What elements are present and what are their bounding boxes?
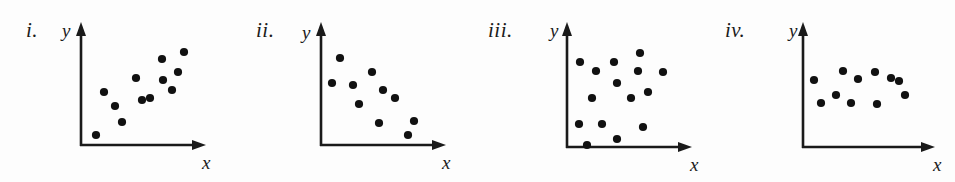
x-axis-arrow-icon-ii (432, 140, 446, 150)
axes-iv (798, 22, 935, 152)
axes-i (76, 22, 206, 150)
data-points-iv (810, 67, 909, 108)
panel-i: i. y x (0, 0, 240, 182)
plot-area-ii (240, 0, 480, 182)
data-points-i (92, 48, 188, 139)
plot-area-i (0, 0, 240, 182)
x-axis-arrow-icon-i (192, 140, 206, 150)
y-axis-arrow-icon-i (76, 22, 86, 36)
y-axis-arrow-icon-ii (316, 22, 326, 36)
data-points-iii (575, 49, 667, 149)
data-points-ii (328, 54, 418, 139)
panel-iii: iii. y x (480, 0, 720, 182)
y-axis-arrow-icon-iv (798, 22, 808, 36)
x-axis-arrow-icon-iii (678, 142, 692, 152)
axes-iii (562, 22, 692, 152)
panel-iv: iv. y x (715, 0, 955, 182)
y-axis-arrow-icon-iii (562, 22, 572, 36)
plot-area-iii (480, 0, 720, 182)
x-axis-arrow-icon-iv (921, 142, 935, 152)
panel-ii: ii. y x (240, 0, 480, 182)
scatter-plot-figure: i. y x (0, 0, 955, 182)
axes-ii (316, 22, 446, 150)
plot-area-iv (715, 0, 955, 182)
